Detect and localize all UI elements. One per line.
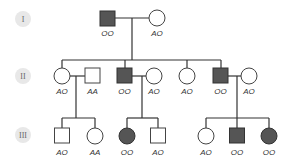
affected-male-square bbox=[117, 68, 132, 83]
generation-badge-II: II bbox=[15, 68, 31, 84]
unaffected-female-circle bbox=[198, 128, 214, 144]
affected-male-square bbox=[213, 68, 228, 83]
affected-female-circle bbox=[261, 128, 277, 144]
affected-male-square bbox=[230, 128, 245, 143]
individual-III-2: AA bbox=[87, 128, 103, 157]
svg-text:AO: AO bbox=[180, 87, 193, 96]
svg-text:OO: OO bbox=[263, 148, 275, 157]
svg-text:AO: AO bbox=[55, 148, 68, 157]
individual-I-1: OO bbox=[100, 11, 115, 38]
unaffected-female-circle bbox=[87, 128, 103, 144]
svg-text:AO: AO bbox=[151, 148, 164, 157]
svg-text:OO: OO bbox=[121, 148, 133, 157]
individual-III-4: AO bbox=[151, 128, 166, 157]
svg-text:OO: OO bbox=[231, 148, 243, 157]
unaffected-female-circle bbox=[146, 68, 162, 84]
generation-badge-III: III bbox=[15, 127, 31, 143]
individual-III-3: OO bbox=[119, 128, 135, 157]
individual-II-3: OO bbox=[117, 68, 132, 96]
svg-text:AO: AO bbox=[199, 148, 212, 157]
individual-II-1: AO bbox=[54, 68, 70, 96]
unaffected-male-square bbox=[55, 128, 70, 143]
individual-II-7: AO bbox=[241, 68, 257, 96]
unaffected-female-circle bbox=[149, 10, 165, 26]
individual-II-5: AO bbox=[179, 68, 195, 96]
generation-badge-I: I bbox=[15, 11, 31, 27]
individual-I-2: AO bbox=[149, 10, 165, 38]
individual-II-4: AO bbox=[146, 68, 162, 96]
individual-III-6: OO bbox=[230, 128, 245, 157]
svg-text:OO: OO bbox=[214, 87, 226, 96]
individual-III-7: OO bbox=[261, 128, 277, 157]
svg-text:AA: AA bbox=[89, 148, 101, 157]
unaffected-female-circle bbox=[179, 68, 195, 84]
svg-text:AO: AO bbox=[55, 87, 68, 96]
svg-text:OO: OO bbox=[101, 29, 113, 38]
svg-text:II: II bbox=[20, 72, 26, 81]
unaffected-male-square bbox=[85, 68, 100, 83]
unaffected-female-circle bbox=[54, 68, 70, 84]
affected-female-circle bbox=[119, 128, 135, 144]
unaffected-male-square bbox=[151, 128, 166, 143]
svg-text:AO: AO bbox=[242, 87, 255, 96]
pedigree-diagram: I II III bbox=[0, 0, 291, 164]
individual-III-1: AO bbox=[55, 128, 70, 157]
svg-text:I: I bbox=[22, 15, 25, 24]
svg-text:III: III bbox=[19, 131, 27, 140]
individual-II-6: OO bbox=[213, 68, 228, 96]
svg-text:AA: AA bbox=[86, 87, 98, 96]
unaffected-female-circle bbox=[241, 68, 257, 84]
individual-II-2: AA bbox=[85, 68, 100, 96]
affected-male-square bbox=[100, 11, 115, 26]
svg-text:AO: AO bbox=[147, 87, 160, 96]
svg-text:AO: AO bbox=[150, 29, 163, 38]
individual-III-5: AO bbox=[198, 128, 214, 157]
svg-text:OO: OO bbox=[118, 87, 130, 96]
